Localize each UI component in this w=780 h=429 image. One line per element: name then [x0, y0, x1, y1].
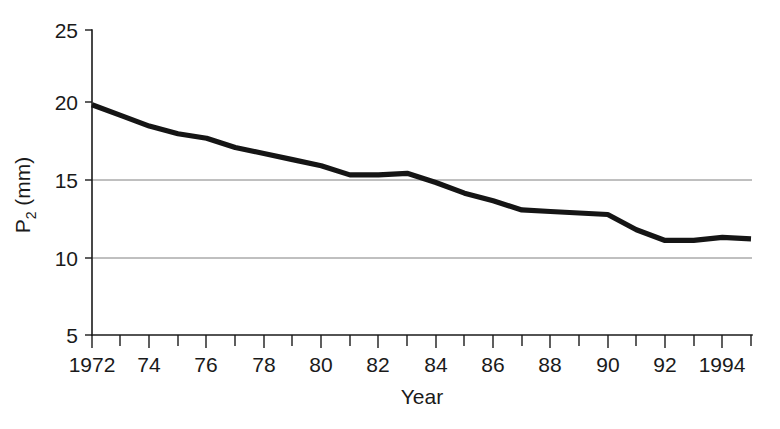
x-tick-label-1978: 78: [252, 353, 275, 376]
x-axis: 1972 74 76 78 80 82 84 86 88 90 92 1994: [69, 335, 752, 376]
y-axis-title: P2 (mm): [11, 157, 39, 234]
y-tick-label-5: 5: [66, 324, 78, 347]
svg-text:P2 (mm): P2 (mm): [11, 157, 39, 234]
x-tick-label-1976: 76: [194, 353, 217, 376]
y-axis-title-unit: (mm): [11, 157, 34, 212]
y-axis-title-base: P: [11, 219, 34, 233]
x-tick-label-1990: 90: [596, 353, 619, 376]
line-chart: 25 20 15 10 5 P2 (mm): [0, 0, 780, 429]
x-tick-label-1994: 1994: [699, 353, 746, 376]
x-tick-label-1986: 86: [481, 353, 504, 376]
x-tick-label-1974: 74: [137, 353, 161, 376]
data-series-line: [92, 105, 751, 241]
chart-page: 25 20 15 10 5 P2 (mm): [0, 0, 780, 429]
x-axis-title: Year: [401, 385, 443, 408]
x-tick-label-1992: 92: [653, 353, 676, 376]
x-tick-label-1972: 1972: [69, 353, 116, 376]
x-tick-label-1988: 88: [538, 353, 561, 376]
y-tick-label-25: 25: [55, 19, 78, 42]
x-tick-label-1984: 84: [424, 353, 448, 376]
y-tick-label-15: 15: [55, 169, 78, 192]
x-tick-label-1980: 80: [309, 353, 332, 376]
y-tick-label-10: 10: [55, 247, 78, 270]
y-tick-label-20: 20: [55, 91, 78, 114]
x-tick-label-1982: 82: [366, 353, 389, 376]
y-axis-title-subscript: 2: [23, 211, 39, 219]
y-axis: 25 20 15 10 5: [55, 19, 92, 347]
gridlines: [92, 180, 752, 258]
